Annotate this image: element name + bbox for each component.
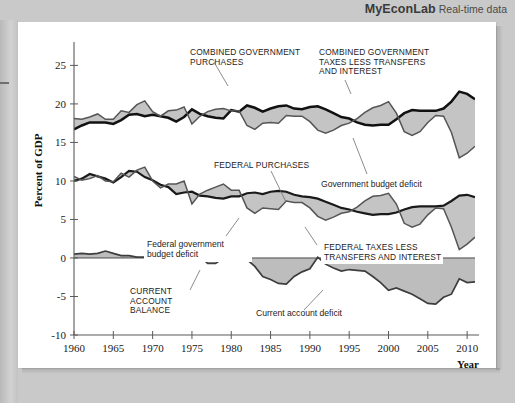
leader-combined-government-taxes <box>345 80 351 94</box>
annotation-combined-government-taxes: COMBINED GOVERNMENTTAXES LESS TRANSFERSA… <box>319 47 429 76</box>
leader-current-account-deficit <box>304 290 323 310</box>
brand-tagline: Real-time data <box>439 3 507 15</box>
band-government-budget-deficit <box>74 92 475 158</box>
card-shadow-bottom <box>22 368 500 374</box>
x-tick-label: 1995 <box>338 342 361 354</box>
annotation-current-account-balance: CURRENTACCOUNTBALANCE <box>130 286 172 315</box>
figure-root: MyEconLabReal-time data -10-505101520251… <box>0 0 515 403</box>
leader-current-account-balance <box>190 270 200 290</box>
x-tick-label: 1975 <box>181 342 204 354</box>
chart-area: -10-505101520251960196519701975198019851… <box>18 22 496 368</box>
annotation-current-account-deficit: Current account deficit <box>256 308 343 318</box>
x-tick-label: 1965 <box>102 342 125 354</box>
myeconlab-brand: MyEconLabReal-time data <box>365 2 507 16</box>
page-edge-tick <box>0 82 9 84</box>
brand-name: MyEconLab <box>365 2 436 16</box>
x-tick-label: 2005 <box>417 342 440 354</box>
y-tick-label: 20 <box>55 98 67 110</box>
x-tick-label: 1980 <box>220 342 243 354</box>
y-tick-label: 0 <box>61 252 67 264</box>
annotation-government-budget-deficit: Government budget deficit <box>321 179 422 189</box>
y-tick-label: -5 <box>57 290 67 302</box>
y-tick-label: 15 <box>55 136 67 148</box>
x-tick-label: 1960 <box>63 342 86 354</box>
y-tick-label: 25 <box>55 59 67 71</box>
y-tick-label: -10 <box>51 329 66 341</box>
figure-card: -10-505101520251960196519701975198019851… <box>18 22 496 368</box>
x-tick-label: 1970 <box>142 342 165 354</box>
brand-bar: MyEconLabReal-time data <box>0 0 515 20</box>
annotation-federal-purchases: FEDERAL PURCHASES <box>214 160 310 170</box>
x-tick-label: 2000 <box>378 342 401 354</box>
y-tick-label: 5 <box>61 213 67 225</box>
leader-federal-budget-deficit <box>226 218 239 236</box>
leader-government-budget-deficit <box>353 138 367 174</box>
annotation-combined-government-purchases: COMBINED GOVERNMENTPURCHASES <box>190 47 300 67</box>
leader-federal-taxes <box>305 227 317 245</box>
x-axis-label: Year <box>457 358 479 368</box>
card-shadow-right <box>496 26 503 370</box>
x-tick-label: 2010 <box>456 342 479 354</box>
x-tick-label: 1985 <box>260 342 283 354</box>
chart-svg: -10-505101520251960196519701975198019851… <box>18 22 496 368</box>
y-axis-label: Percent of GDP <box>32 133 44 207</box>
x-tick-label: 1990 <box>299 342 322 354</box>
page-edge <box>0 20 18 403</box>
y-tick-label: 10 <box>55 175 67 187</box>
